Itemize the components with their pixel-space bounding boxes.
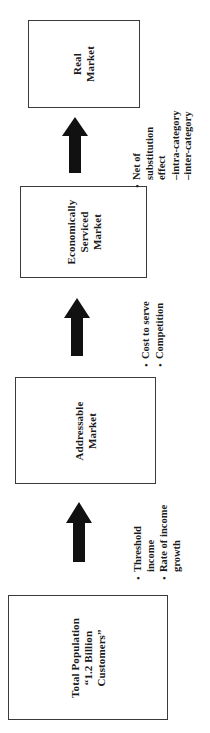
up-arrow-icon-addressable-to-economic (64, 298, 90, 356)
stage-box-economically-serviced-market: Economically Serviced Market (20, 186, 147, 278)
annotation-text: Cost to serve (140, 301, 153, 359)
annotation-item: • Rate of income growth (158, 505, 183, 580)
annotation-text: Rate of income growth (158, 505, 183, 572)
up-arrow-icon-total-to-addressable (66, 502, 92, 562)
stage-box-total-population: Total Population “1.2 Billion Customers” (8, 595, 168, 720)
annotation-cost-and-competition: • Cost to serve • Competition (140, 301, 168, 367)
annotation-text: Threshold income (132, 526, 157, 572)
bullet-icon: • (132, 572, 145, 580)
annotation-item: • Competition (154, 301, 167, 367)
annotation-subitem: –intra-category (170, 111, 183, 180)
stage-box-addressable-market: Addressable Market (15, 377, 156, 484)
annotation-item: • Cost to serve (140, 301, 153, 367)
up-arrow-icon-economic-to-real (62, 117, 88, 173)
bullet-icon: • (154, 359, 167, 367)
annotation-item: • Threshold income (132, 505, 157, 580)
stage-label-total-population: Total Population “1.2 Billion Customers” (69, 618, 108, 698)
annotation-threshold-income: • Threshold income • Rate of income grow… (132, 505, 184, 580)
bullet-icon: • (140, 359, 153, 367)
bullet-icon: • (131, 180, 144, 188)
annotation-substitution-effect: • Net of substitution effect –intra-cate… (131, 111, 195, 188)
stage-label-economically-serviced-market: Economically Serviced Market (64, 200, 103, 265)
annotation-subitem: –inter-category (182, 111, 195, 180)
annotation-text: Competition (154, 303, 167, 359)
stage-label-addressable-market: Addressable Market (73, 401, 99, 460)
annotation-item: • Net of substitution effect (131, 111, 169, 188)
stage-box-real-market: Real Market (28, 20, 140, 108)
annotation-text: Net of substitution effect (131, 127, 169, 180)
diagram-canvas: Real Market Economically Serviced Market… (0, 0, 210, 733)
stage-label-real-market: Real Market (71, 46, 97, 82)
bullet-icon: • (158, 572, 171, 580)
